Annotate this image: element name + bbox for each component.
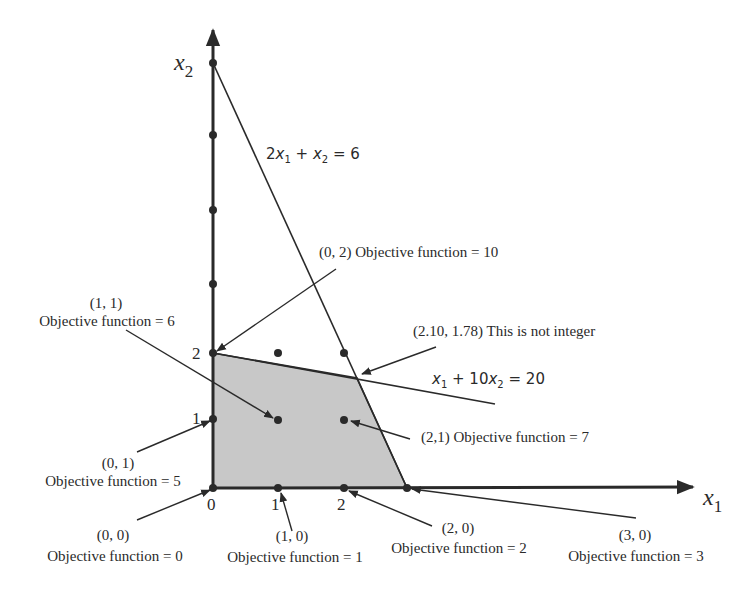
x1-axis-label: x1 — [702, 484, 722, 516]
arrow-lp-opt — [362, 347, 436, 374]
feasible-region — [213, 353, 407, 488]
y-tick-2: 2 — [192, 344, 201, 363]
arrow-p10 — [281, 493, 292, 531]
integer-programming-diagram: x2 x1 0 1 2 1 2 2x1 + x2 = 6 x1 + 10x2 =… — [0, 0, 751, 594]
x-tick-1: 1 — [271, 495, 280, 514]
annotation-p00-value: Objective function = 0 — [47, 548, 183, 564]
annotation-p20-value: Objective function = 2 — [391, 540, 527, 556]
annotation-p01-coord: (0, 1) — [102, 455, 135, 472]
annotation-p02: (0, 2) Objective function = 10 — [319, 244, 498, 261]
arrow-p30 — [412, 489, 636, 518]
constraint-label-1: 2x1 + x2 = 6 — [266, 145, 360, 165]
x2-axis-label: x2 — [173, 49, 193, 81]
arrow-p20 — [349, 491, 432, 526]
annotation-p00-coord: (0, 0) — [97, 527, 130, 544]
annotation-p30-value: Objective function = 3 — [568, 548, 704, 564]
annotation-p10-coord: (1, 0) — [276, 528, 309, 545]
constraint-label-2: x1 + 10x2 = 20 — [431, 370, 545, 390]
x1-axis — [212, 487, 693, 488]
x-tick-2: 2 — [337, 495, 346, 514]
annotation-p10-value: Objective function = 1 — [227, 549, 363, 565]
annotation-p20-coord: (2, 0) — [442, 520, 475, 537]
annotation-p11-value: Objective function = 6 — [39, 313, 175, 329]
annotation-p01-value: Objective function = 5 — [45, 473, 181, 489]
arrow-p00 — [137, 490, 210, 520]
annotation-p30-coord: (3, 0) — [619, 527, 652, 544]
annotation-p21: (2,1) Objective function = 7 — [421, 429, 589, 446]
x-tick-0: 0 — [207, 495, 216, 514]
arrow-p02 — [217, 269, 336, 351]
annotation-lp-optimum: (2.10, 1.78) This is not integer — [413, 323, 595, 340]
annotation-p11-coord: (1, 1) — [90, 295, 123, 312]
arrow-p01 — [137, 421, 210, 452]
